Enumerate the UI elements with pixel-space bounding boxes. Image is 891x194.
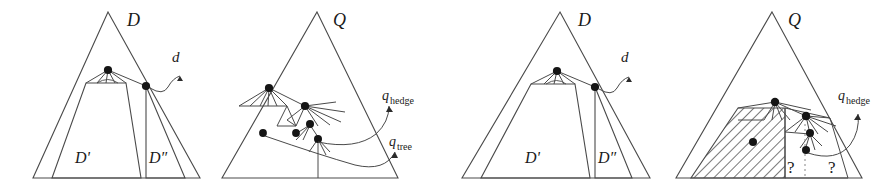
panel-3-label-d-prime: D': [524, 149, 541, 166]
panel-4-node-c: [806, 129, 814, 137]
panel-3-root-node: [553, 67, 561, 75]
panel-2-node-d: [314, 135, 322, 143]
panel-2-label-q-tree-sub: tree: [397, 141, 413, 152]
panel-4-title-label: Q: [788, 10, 801, 30]
panel-4-question-mark-right: ?: [828, 158, 836, 177]
panel-1-root-node: [104, 66, 112, 74]
panel-3-label-d-double-prime: D″: [597, 149, 617, 166]
panel-3-title-label: D: [577, 10, 591, 30]
panel-4-label-q-hedge-base: q: [838, 88, 845, 103]
panel-4-node-in-hatch: [749, 138, 757, 146]
panel-2-label-q-hedge-base: q: [382, 88, 389, 103]
panel-4-node-b: [802, 112, 810, 120]
panel-3-label-d: d: [621, 49, 629, 65]
figure-four-panel-tree-diagram: D D' D″ d: [0, 0, 891, 194]
panel-2-label-q-hedge-sub: hedge: [390, 95, 414, 106]
panel-3-node-d: [591, 83, 599, 91]
panel-2-node-isolated: [292, 129, 300, 137]
panel-1-title-label: D: [126, 10, 140, 30]
panel-1-label-d-prime: D': [74, 149, 91, 166]
panel-2-node-c: [306, 120, 314, 128]
panel-4-label-q-hedge-sub: hedge: [846, 95, 870, 106]
panel-1-label-d-double-prime: D″: [148, 149, 168, 166]
panel-1-node-d: [142, 82, 150, 90]
panel-4-node-root: [771, 98, 779, 106]
panel-2-node-root: [265, 84, 273, 92]
panel-2-label-q-tree-base: q: [389, 134, 396, 149]
panel-2-node-b: [301, 102, 309, 110]
panel-1-label-d: d: [172, 49, 180, 65]
panel-2-title-label: Q: [333, 10, 346, 30]
panel-4-question-mark-left: ?: [787, 158, 795, 177]
